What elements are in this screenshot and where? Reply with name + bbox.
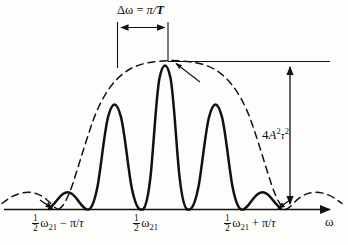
interference-spectrum-figure: Δω = π/T 4A2τ2 1 2 ω21 − π/τ 1 2 ω21 1 2… <box>0 0 348 245</box>
tick-tau-right: τ <box>271 216 275 230</box>
fringe-spacing-symbol: Δω <box>117 3 133 17</box>
one-half-fraction: 1 2 <box>224 214 231 234</box>
envelope-right-sidelobe <box>286 192 343 209</box>
fringe-spacing-label: Δω = π/T <box>117 4 164 17</box>
peak-amplitude-label: 4A2τ2 <box>262 128 289 141</box>
fringe-spacing-value: π/ <box>147 3 157 17</box>
period-symbol: T <box>156 3 164 17</box>
one-half-fraction: 1 2 <box>133 214 140 234</box>
x-axis-label: ω <box>325 215 334 228</box>
fraction-numerator: 1 <box>224 214 231 224</box>
tau-exponent: 2 <box>285 126 289 136</box>
peak-pointer <box>176 64 200 83</box>
plot-canvas <box>0 0 348 245</box>
omega-subscript: 21 <box>48 222 57 232</box>
fraction-denominator: 2 <box>133 223 140 234</box>
one-half-fraction: 1 2 <box>32 214 39 234</box>
omega-subscript: 21 <box>149 222 158 232</box>
tick-offset-right: + π/ <box>252 216 271 230</box>
x-tick-label-right: 1 2 ω21 + π/τ <box>224 214 276 234</box>
x-tick-label-left: 1 2 ω21 − π/τ <box>32 214 84 234</box>
x-tick-label-center: 1 2 ω21 <box>133 214 158 234</box>
tick-offset-left: − π/ <box>60 216 79 230</box>
fraction-numerator: 1 <box>133 214 140 224</box>
fraction-denominator: 2 <box>224 223 231 234</box>
omega-subscript: 21 <box>240 222 249 232</box>
fraction-numerator: 1 <box>32 214 39 224</box>
fraction-denominator: 2 <box>32 223 39 234</box>
envelope-tail-pointer-left <box>40 200 53 209</box>
tick-tau-left: τ <box>79 216 83 230</box>
fringe-pattern-curve <box>49 66 281 210</box>
